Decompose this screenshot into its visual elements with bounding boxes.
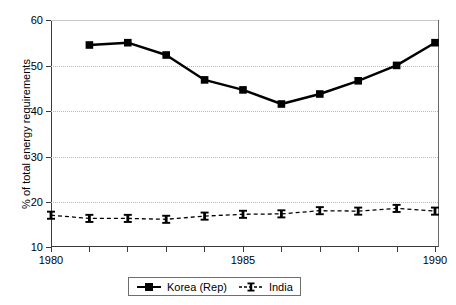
- y-tick-label-10: 10: [17, 242, 43, 253]
- y-tick-mark-40: [46, 111, 51, 112]
- x-tick-mark-1988: [358, 247, 359, 252]
- plot-area: [51, 20, 438, 247]
- y-tick-mark-50: [46, 66, 51, 67]
- x-tick-mark-1989: [397, 247, 398, 252]
- x-tick-label-1985: 1985: [223, 254, 263, 266]
- gridline-20: [51, 202, 438, 204]
- x-tick-mark-1981: [89, 247, 90, 252]
- y-tick-mark-60: [46, 20, 51, 21]
- gridline-30: [51, 157, 438, 159]
- x-tick-label-1990: 1990: [415, 254, 455, 266]
- y-tick-mark-20: [46, 202, 51, 203]
- x-tick-mark-1984: [204, 247, 205, 252]
- legend-label-india: India: [269, 281, 293, 293]
- y-tick-label-60: 60: [17, 15, 43, 26]
- gridline-60: [51, 20, 438, 21]
- x-tick-mark-1983: [166, 247, 167, 252]
- y-tick-mark-30: [46, 157, 51, 158]
- y-tick-label-50: 50: [17, 61, 43, 72]
- y-tick-label-30: 30: [17, 152, 43, 163]
- y-tick-label-20: 20: [17, 197, 43, 208]
- legend-entry-india: India: [238, 281, 293, 293]
- x-tick-mark-1986: [281, 247, 282, 252]
- gridline-40: [51, 111, 438, 113]
- plot-right-border: [438, 20, 439, 247]
- y-tick-label-40: 40: [17, 106, 43, 117]
- x-tick-mark-1987: [320, 247, 321, 252]
- legend-label-korea: Korea (Rep): [167, 281, 227, 293]
- legend-marker-square-icon: [136, 281, 162, 293]
- x-tick-label-1980: 1980: [31, 254, 71, 266]
- x-tick-mark-1985: [243, 247, 244, 252]
- gridline-50: [51, 66, 438, 68]
- legend-marker-ibeam-icon: [238, 281, 264, 293]
- chart-container: % of total energy requirements 60 50 40 …: [0, 0, 456, 305]
- x-tick-mark-1982: [127, 247, 128, 252]
- legend-entry-korea: Korea (Rep): [136, 281, 227, 293]
- x-tick-mark-1980: [51, 247, 52, 252]
- x-tick-mark-1990: [435, 247, 436, 252]
- chart-legend: Korea (Rep) India: [128, 277, 301, 296]
